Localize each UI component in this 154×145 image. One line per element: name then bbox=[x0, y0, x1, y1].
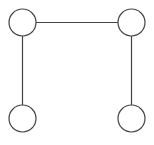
node-top-left bbox=[9, 9, 36, 36]
edges-group bbox=[23, 23, 132, 106]
node-bottom-right bbox=[118, 105, 145, 132]
node-bottom-left bbox=[9, 105, 36, 132]
node-top-right bbox=[118, 9, 145, 36]
nodes-group bbox=[9, 9, 145, 132]
graph-diagram bbox=[0, 0, 154, 145]
